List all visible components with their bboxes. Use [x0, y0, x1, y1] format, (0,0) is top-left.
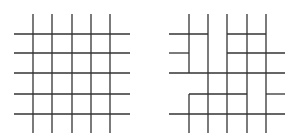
modified-grid: [169, 14, 285, 133]
complete-grid: [14, 14, 130, 133]
grid-figure: [0, 0, 296, 138]
